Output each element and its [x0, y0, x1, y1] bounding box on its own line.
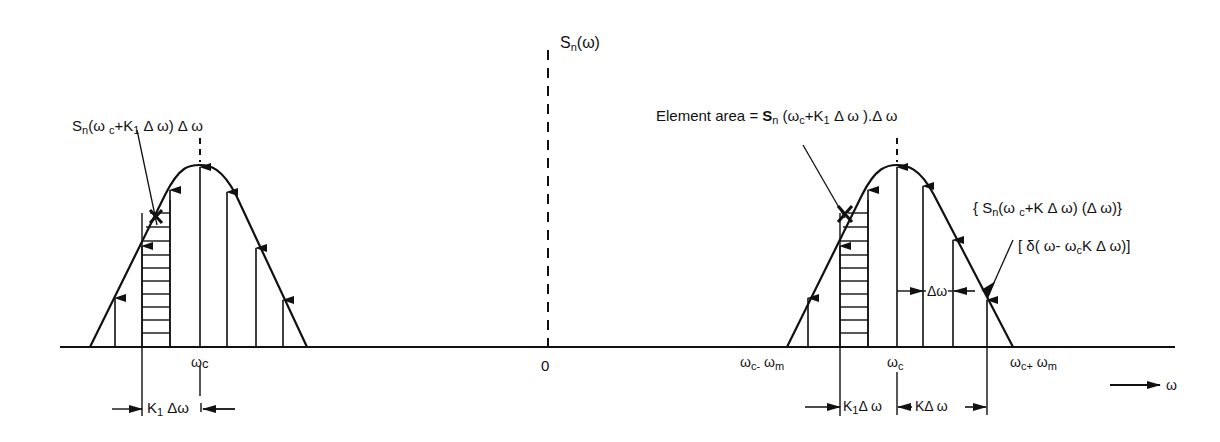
x-axis-label: ω	[1166, 378, 1177, 392]
left-element-annotation: Sn(ω c+K1 Δ ω) Δ ω	[72, 118, 203, 136]
right-shaded-element	[840, 200, 868, 347]
spectral-weight-annotation: { Sn(ω c+K Δ ω) (Δ ω)}	[973, 200, 1122, 218]
element-area-annotation: Element area = Sn (ωc+K1 Δ ω ).Δ ω	[656, 108, 897, 126]
right-envelope-curve	[787, 165, 1013, 347]
left-impulse-arrows	[115, 167, 283, 347]
left-spectral-lobe	[90, 130, 307, 416]
right-spectral-lobe	[787, 138, 1013, 416]
delta-function-annotation: [ δ( ω- ωcK Δ ω)]	[1018, 238, 1130, 256]
right-k1-dimension-label: K1Δ ω	[843, 399, 882, 416]
right-center-frequency-label: ωc	[887, 355, 903, 372]
left-envelope-curve	[90, 165, 307, 347]
origin-label: 0	[541, 358, 549, 373]
upper-band-edge-label: ωc+ ωm	[1010, 355, 1057, 372]
lower-band-edge-label: ωc- ωm	[740, 355, 784, 372]
left-k1-dimension-label: K1 Δω	[147, 400, 189, 418]
left-center-frequency-label: ωc	[191, 355, 208, 370]
diagram-canvas	[0, 0, 1220, 442]
right-impulse-arrows	[808, 167, 987, 347]
y-axis-label: Sn(ω)	[560, 35, 600, 53]
k-dimension-label: KΔ ω	[915, 399, 948, 413]
left-annotation-pointer	[137, 130, 157, 225]
delta-omega-label: Δω	[926, 284, 948, 298]
